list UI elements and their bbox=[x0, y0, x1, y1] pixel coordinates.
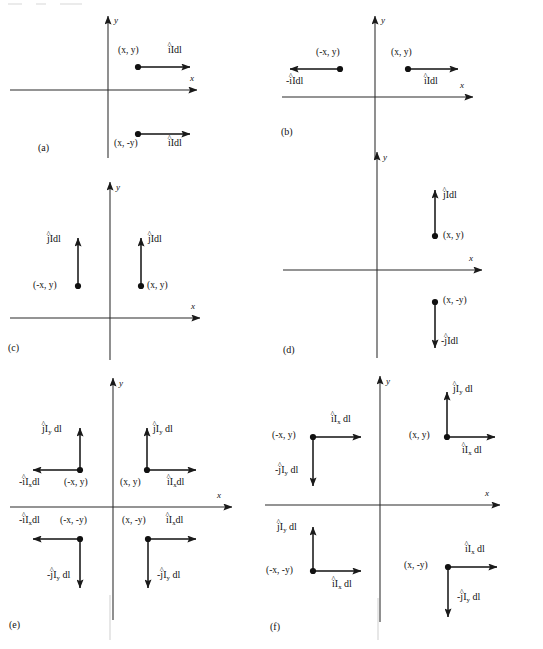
panel-b-x-axis-label: x bbox=[460, 81, 464, 90]
panel-e-coord-negx-negy: (-x, -y) bbox=[60, 516, 87, 526]
panel-f-axes bbox=[265, 376, 500, 622]
panel-b-points bbox=[337, 66, 411, 72]
vector-diagram-svg bbox=[0, 0, 543, 649]
j-hat-glyph: ^j bbox=[50, 570, 53, 580]
panel-f-q3-vector-up: ^jIy dl bbox=[277, 522, 297, 534]
panel-c-vector-label-2: ^jIdl bbox=[148, 234, 162, 244]
i-hat-glyph: ^i bbox=[462, 445, 465, 455]
i-hat-glyph: ^i bbox=[166, 515, 169, 525]
panel-a-coord-x-negy: (x, -y) bbox=[114, 139, 138, 149]
panel-b-coord-xy: (x, y) bbox=[391, 48, 412, 58]
panel-a-coord-xy: (x, y) bbox=[118, 46, 139, 56]
i-hat-glyph: ^i bbox=[289, 76, 292, 86]
panel-c-axes bbox=[10, 182, 200, 360]
panel-e-y-axis-label: y bbox=[119, 379, 123, 388]
panel-f-x-axis-label: x bbox=[485, 489, 489, 498]
panel-a-vector-label-1: ^iIdl bbox=[168, 45, 182, 55]
panel-a-x-axis-label: x bbox=[190, 74, 194, 83]
panel-a-vector-label-2: ^iIdl bbox=[168, 138, 182, 148]
panel-e-q4-vector-right: ^iIxdl bbox=[166, 515, 183, 527]
j-hat-glyph: ^j bbox=[443, 190, 446, 200]
panel-e-x-axis-label: x bbox=[217, 491, 221, 500]
panel-b-coord-negx-y: (-x, y) bbox=[316, 48, 340, 58]
panel-f-coord-xy: (x, y) bbox=[409, 431, 430, 441]
j-hat-glyph: ^j bbox=[277, 522, 280, 532]
i-hat-glyph: ^i bbox=[168, 45, 171, 55]
panel-f-y-axis-label: y bbox=[386, 377, 390, 386]
scan-artifact bbox=[36, 3, 46, 5]
panel-b-vector-label-1: -^iIdl bbox=[286, 76, 303, 86]
scan-artifact bbox=[60, 3, 82, 5]
panel-d-coord-xy: (x, y) bbox=[443, 231, 464, 241]
panel-d-coord-x-negy: (x, -y) bbox=[443, 296, 467, 306]
panel-d-axes bbox=[283, 152, 482, 358]
panel-e-caption: (e) bbox=[9, 620, 20, 630]
panel-e-axes bbox=[10, 378, 232, 620]
panel-e-q1-vector-right: ^iIxdl bbox=[167, 477, 184, 489]
panel-c-caption: (c) bbox=[8, 343, 19, 353]
i-hat-glyph: ^i bbox=[332, 579, 335, 589]
panel-f-coord-negx-negy: (-x, -y) bbox=[266, 566, 293, 576]
panel-a-points bbox=[135, 64, 141, 137]
panel-d-points bbox=[432, 233, 438, 305]
panel-c-coord-xy: (x, y) bbox=[147, 281, 168, 291]
panel-b-axes bbox=[282, 16, 473, 160]
page-gutter-rule bbox=[110, 595, 378, 640]
j-hat-glyph: ^j bbox=[444, 336, 447, 346]
i-hat-glyph: ^i bbox=[22, 477, 25, 487]
panel-f-q1-vector-up: ^jIy dl bbox=[453, 384, 473, 396]
panel-d-x-axis-label: x bbox=[469, 254, 473, 263]
panel-f-q3-vector-right: ^iIx dl bbox=[332, 579, 352, 591]
panel-b-y-axis-label: y bbox=[381, 16, 385, 25]
panel-c-coord-negx-y: (-x, y) bbox=[33, 281, 57, 291]
panel-e-q2-vector-left: -^iIxdl bbox=[19, 477, 40, 489]
panel-a-vectors bbox=[138, 67, 190, 134]
panel-b-caption: (b) bbox=[281, 127, 293, 137]
panel-f-q4-vector-down: -^jIy dl bbox=[457, 592, 480, 604]
panel-e-q3-vector-down: -^jIy dl bbox=[47, 570, 70, 582]
panel-c-y-axis-label: y bbox=[116, 183, 120, 192]
panel-a-caption: (a) bbox=[38, 143, 49, 153]
panel-d-vector-label-1: ^jIdl bbox=[443, 190, 457, 200]
panel-f-q2-vector-right: ^iIx dl bbox=[331, 414, 351, 426]
j-hat-glyph: ^j bbox=[148, 234, 151, 244]
panel-e-q3-vector-left: -^iIxdl bbox=[19, 515, 40, 527]
j-hat-glyph: ^j bbox=[453, 384, 456, 394]
j-hat-glyph: ^j bbox=[278, 465, 281, 475]
panel-b-vector-label-2: ^iIdl bbox=[424, 76, 438, 86]
panel-d-caption: (d) bbox=[283, 345, 295, 355]
j-hat-glyph: ^j bbox=[47, 234, 50, 244]
panel-f-coord-negx-y: (-x, y) bbox=[272, 431, 296, 441]
panel-e-q4-vector-down: -^jIy dl bbox=[157, 570, 180, 582]
panel-f-q2-vector-down: -^jIy dl bbox=[275, 465, 298, 477]
panel-e-vectors bbox=[33, 428, 196, 588]
j-hat-glyph: ^j bbox=[460, 592, 463, 602]
panel-d-vector-label-2: -^jIdl bbox=[441, 336, 458, 346]
panel-e-q1-vector-up: ^jIy dl bbox=[153, 424, 173, 436]
panel-a-y-axis-label: y bbox=[114, 16, 118, 25]
i-hat-glyph: ^i bbox=[424, 76, 427, 86]
j-hat-glyph: ^j bbox=[42, 424, 45, 434]
panel-e-coord-negx-y: (-x, y) bbox=[64, 478, 88, 488]
panel-e-coord-xy: (x, y) bbox=[120, 478, 141, 488]
panel-d-y-axis-label: y bbox=[383, 153, 387, 162]
panel-c-vector-label-1: ^jIdl bbox=[47, 234, 61, 244]
panel-f-q4-vector-right: ^iIx dl bbox=[465, 544, 485, 556]
panel-e-coord-x-negy: (x, -y) bbox=[122, 516, 146, 526]
j-hat-glyph: ^j bbox=[160, 570, 163, 580]
i-hat-glyph: ^i bbox=[167, 477, 170, 487]
i-hat-glyph: ^i bbox=[168, 138, 171, 148]
i-hat-glyph: ^i bbox=[465, 544, 468, 554]
panel-f-q1-vector-right: ^iIx dl bbox=[462, 445, 482, 457]
panel-c-x-axis-label: x bbox=[191, 302, 195, 311]
j-hat-glyph: ^j bbox=[153, 424, 156, 434]
i-hat-glyph: ^i bbox=[331, 414, 334, 424]
panel-e-q2-vector-up: ^jIy dl bbox=[42, 424, 62, 436]
i-hat-glyph: ^i bbox=[22, 515, 25, 525]
figure-canvas: x y (x, y) ^iIdl (x, -y) ^iIdl (a) x y (… bbox=[0, 0, 543, 649]
scan-artifact bbox=[8, 3, 22, 5]
panel-f-caption: (f) bbox=[270, 622, 280, 632]
panel-f-coord-x-negy: (x, -y) bbox=[404, 561, 428, 571]
